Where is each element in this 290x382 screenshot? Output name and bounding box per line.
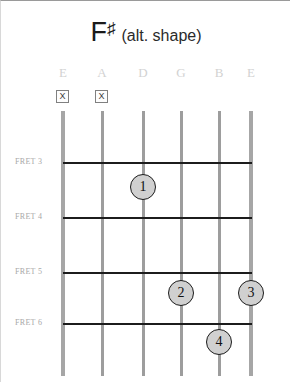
string-line-2 <box>142 111 145 376</box>
string-label-2: D <box>132 65 154 81</box>
string-label-1: A <box>91 65 113 81</box>
finger-dot-2: 2 <box>168 280 194 306</box>
fret-line-0 <box>63 162 252 164</box>
fret-label-3: FRET 6 <box>15 318 61 327</box>
fret-label-2: FRET 5 <box>15 267 61 276</box>
string-line-1 <box>101 111 104 376</box>
fret-label-1: FRET 4 <box>15 212 61 221</box>
string-label-3: G <box>170 65 192 81</box>
string-line-5 <box>249 111 253 376</box>
chord-accidental-label: ♯ <box>107 19 116 38</box>
string-label-4: B <box>208 65 230 81</box>
chord-diagram-card: F♯(alt. shape) EADGBE XX FRET 3FRET 4FRE… <box>0 0 290 382</box>
string-label-5: E <box>240 65 262 81</box>
string-line-3 <box>180 111 183 376</box>
fret-line-1 <box>63 217 252 219</box>
chord-qualifier-label: (alt. shape) <box>121 27 201 44</box>
finger-dot-4: 4 <box>206 329 232 355</box>
mute-x-icon-string-1: X <box>95 90 108 103</box>
string-label-0: E <box>52 65 74 81</box>
chord-root-label: F <box>90 17 107 47</box>
fret-line-2 <box>63 272 252 274</box>
fret-label-0: FRET 3 <box>15 157 61 166</box>
mute-x-icon-string-0: X <box>56 90 69 103</box>
finger-dot-3: 3 <box>238 280 264 306</box>
chord-title: F♯(alt. shape) <box>1 17 290 48</box>
fret-line-3 <box>63 323 252 325</box>
finger-dot-1: 1 <box>130 174 156 200</box>
string-line-0 <box>61 111 65 376</box>
